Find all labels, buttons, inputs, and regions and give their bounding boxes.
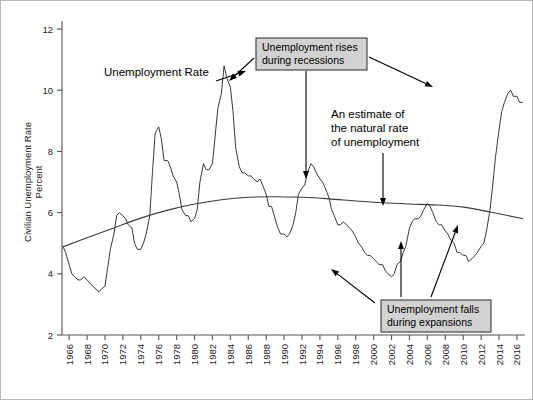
x-tick-label: 1986: [243, 344, 254, 365]
annotation-text: Unemployment Rate: [104, 66, 209, 78]
natural-rate-line: [63, 197, 523, 247]
annotation-box-unemployment-falls: Unemployment falls during expansions: [381, 300, 491, 332]
x-tick-label: 2014: [494, 344, 505, 365]
x-tick-label: 1990: [279, 344, 290, 365]
x-tick-label: 1988: [261, 344, 272, 365]
y-tick-label: 6: [48, 207, 53, 218]
annotation-text-line2: the natural rate: [331, 122, 408, 134]
x-tick-label: 1972: [117, 344, 128, 365]
arrow-head: [331, 269, 339, 276]
annotation-box-text-line2: during recessions: [262, 54, 344, 66]
x-tick-label: 1996: [332, 344, 343, 365]
annotation-arrows: [216, 57, 458, 303]
x-tick-label: 2002: [386, 344, 397, 365]
arrow-shaft: [337, 274, 375, 303]
arrow-head: [380, 198, 386, 206]
unemployment-rate-line: [63, 66, 522, 292]
x-tick-label: 1978: [171, 344, 182, 365]
x-tick-label: 1966: [64, 344, 75, 365]
annotation-text-line1: An estimate of: [331, 108, 405, 120]
x-tick-label: 2008: [440, 344, 451, 365]
arrow-rises-to-2009: [369, 57, 433, 87]
arrow-head: [398, 241, 404, 249]
arrow-falls-to-2000: [331, 269, 375, 303]
y-axis-title-line2: Percent: [33, 165, 44, 198]
annotation-box-text-line2: during expansions: [387, 316, 472, 328]
arrow-falls-to-2015: [431, 225, 458, 297]
x-tick-label: 1980: [189, 344, 200, 365]
x-tick-label: 2012: [476, 344, 487, 365]
x-tick-label: 2000: [368, 344, 379, 365]
arrow-head: [303, 171, 309, 179]
x-tick-label: 1992: [297, 344, 308, 365]
y-tick-label: 10: [42, 85, 53, 96]
x-tick-label: 1974: [135, 344, 146, 365]
annotation-unemployment-rate-label: Unemployment Rate: [104, 66, 209, 78]
annotation-box-unemployment-rises: Unemployment rises during recessions: [256, 38, 367, 70]
y-tick-label: 12: [42, 24, 53, 35]
x-tick-label: 1982: [207, 344, 218, 365]
annotation-natural-rate-label: An estimate of the natural rate of unemp…: [331, 108, 420, 148]
arrow-shaft: [369, 57, 426, 84]
arrow-head: [452, 225, 458, 234]
x-tick-label: 1970: [99, 344, 110, 365]
x-tick-label: 2004: [404, 344, 415, 365]
x-tick-label: 1994: [314, 344, 325, 365]
arrow-rises-to-1975: [229, 58, 254, 81]
annotation-box-text-line1: Unemployment falls: [387, 303, 479, 315]
x-tick-label: 1976: [153, 344, 164, 365]
y-axis-ticks: 24681012: [42, 24, 62, 341]
arrow-rises-to-1992: [303, 71, 309, 179]
chart-figure: 24681012 1966196819701972197419761978198…: [0, 0, 533, 400]
x-tick-label: 2006: [422, 344, 433, 365]
x-tick-label: 1968: [82, 344, 93, 365]
arrow-natural-rate: [380, 153, 386, 206]
annotation-box-text-line1: Unemployment rises: [262, 41, 358, 53]
x-tick-label: 1998: [350, 344, 361, 365]
x-axis-ticks: 1966196819701972197419761978198019821984…: [64, 335, 523, 365]
x-tick-label: 1984: [225, 344, 236, 365]
unemployment-rate-chart: 24681012 1966196819701972197419761978198…: [1, 1, 533, 400]
annotation-text-line3: of unemployment: [331, 136, 420, 148]
x-tick-label: 2010: [458, 344, 469, 365]
y-axis-title: Civilian Unemployment Rate Percent: [22, 122, 44, 242]
y-axis-title-line1: Civilian Unemployment Rate: [22, 122, 33, 242]
arrow-falls-to-2006: [398, 241, 404, 297]
y-tick-label: 8: [48, 146, 53, 157]
arrow-shaft: [235, 58, 254, 76]
y-tick-label: 2: [48, 330, 53, 341]
x-tick-label: 2016: [511, 344, 522, 365]
y-tick-label: 4: [48, 268, 53, 279]
arrow-head: [424, 81, 433, 87]
data-series: [63, 66, 523, 292]
arrow-shaft: [431, 232, 455, 297]
